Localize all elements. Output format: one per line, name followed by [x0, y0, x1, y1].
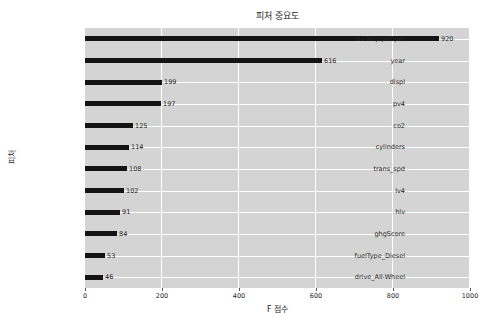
bar-value-label: 53 — [107, 252, 115, 260]
x-tick-label: 1000 — [462, 292, 479, 300]
chart-title: 피처 중요도 — [85, 9, 470, 22]
y-tick-label: ghgScore — [374, 230, 405, 238]
bar — [85, 275, 103, 280]
x-tick-mark — [239, 288, 240, 291]
feature-importance-figure: 피처 중요도 92061619919712511410810291845346 … — [0, 0, 494, 323]
x-tick-label: 0 — [83, 292, 87, 300]
bar-value-label: 114 — [131, 143, 143, 151]
y-tick-label: year — [390, 57, 405, 65]
bar — [85, 145, 129, 150]
gridline-v — [392, 28, 393, 288]
bar — [85, 188, 124, 193]
bar-value-label: 108 — [129, 165, 141, 173]
bar — [85, 80, 162, 85]
gridline-h — [85, 234, 470, 235]
gridline-h — [85, 212, 470, 213]
x-tick-label: 200 — [156, 292, 168, 300]
y-tick-label: drive_All-Wheel — [355, 273, 405, 281]
bar — [85, 210, 120, 215]
bar — [85, 101, 161, 106]
y-tick-label: displ — [390, 78, 405, 86]
gridline-v — [238, 28, 239, 288]
y-tick-label: co2 — [393, 122, 405, 130]
x-tick-label: 800 — [387, 292, 399, 300]
y-tick-label: fuelType_Diesel — [355, 252, 405, 260]
bar-value-label: 920 — [441, 35, 453, 43]
x-axis-label: F 점수 — [85, 303, 470, 314]
y-tick-label: co2TailpipeGpm — [353, 35, 405, 43]
bar — [85, 231, 117, 236]
gridline-h — [85, 191, 470, 192]
y-tick-label: lv4 — [395, 187, 405, 195]
gridline-v — [469, 28, 470, 288]
bar — [85, 253, 105, 258]
x-tick-mark — [470, 288, 471, 291]
plot-area: 92061619919712511410810291845346 — [85, 28, 470, 288]
x-tick-mark — [162, 288, 163, 291]
y-tick-label: trans_spd — [373, 165, 405, 173]
bar — [85, 58, 322, 63]
x-tick-mark — [316, 288, 317, 291]
y-axis-label: 피처 — [6, 150, 17, 164]
bar — [85, 166, 127, 171]
gridline-h — [85, 277, 470, 278]
bar-value-label: 197 — [163, 100, 175, 108]
bar-value-label: 125 — [135, 122, 147, 130]
bar-value-label: 46 — [105, 273, 113, 281]
x-tick-label: 400 — [233, 292, 245, 300]
bar — [85, 123, 133, 128]
x-tick-mark — [393, 288, 394, 291]
bar-value-label: 102 — [126, 187, 138, 195]
bar-value-label: 84 — [119, 230, 127, 238]
y-tick-label: cylinders — [376, 143, 405, 151]
gridline-v — [161, 28, 162, 288]
gridline-v — [315, 28, 316, 288]
bar-value-label: 616 — [324, 57, 336, 65]
y-tick-label: pv4 — [393, 100, 405, 108]
y-tick-label: hlv — [395, 208, 405, 216]
x-tick-mark — [85, 288, 86, 291]
bar-value-label: 199 — [164, 78, 176, 86]
bar-value-label: 91 — [122, 208, 130, 216]
gridline-h — [85, 169, 470, 170]
x-tick-label: 600 — [310, 292, 322, 300]
gridline-h — [85, 256, 470, 257]
